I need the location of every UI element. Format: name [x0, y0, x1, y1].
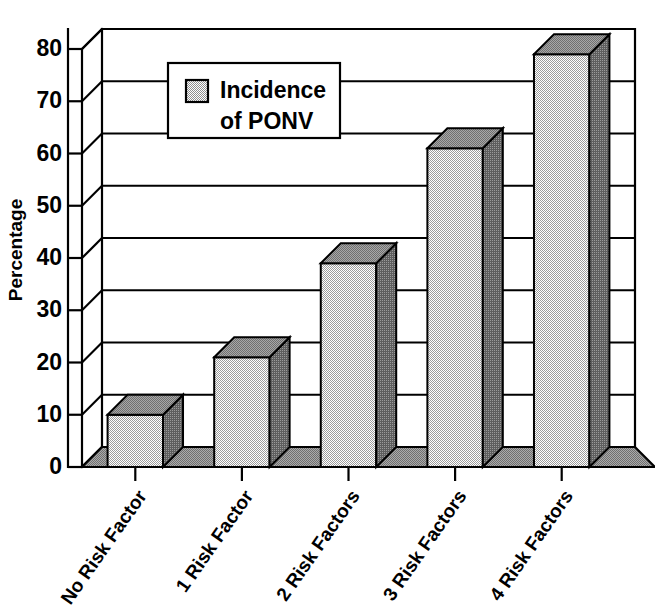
- legend-label-line-1: Incidence: [220, 77, 326, 103]
- y-axis-title: Percentage: [5, 199, 26, 301]
- y-tick-label-0: 0: [49, 453, 62, 479]
- y-tick-label-50: 50: [36, 192, 62, 218]
- legend-swatch-incidence: [186, 80, 208, 102]
- legend: Incidence of PONV: [168, 63, 340, 138]
- bar-front-face-1: [214, 357, 269, 467]
- chart-container: 01020304050607080 Percentage No Risk Fac…: [0, 0, 655, 614]
- legend-label-line-2: of PONV: [220, 108, 314, 134]
- y-tick-label-30: 30: [36, 296, 62, 322]
- y-tick-label-10: 10: [36, 401, 62, 427]
- y-tick-label-70: 70: [36, 87, 62, 113]
- bar-front-face-3: [427, 148, 482, 467]
- y-tick-label-80: 80: [36, 35, 62, 61]
- bar-side-face-3: [483, 128, 503, 467]
- bar-side-face-2: [376, 243, 396, 467]
- y-tick-label-60: 60: [36, 140, 62, 166]
- bar-front-face-2: [321, 263, 376, 467]
- bar-front-face-4: [534, 54, 589, 467]
- bar-3: [427, 128, 502, 467]
- bar-side-face-4: [589, 34, 609, 467]
- bar-4: [534, 34, 609, 467]
- bar-1: [214, 337, 289, 467]
- bar-2: [321, 243, 396, 467]
- bar-front-face-0: [108, 415, 163, 467]
- y-tick-label-40: 40: [36, 244, 62, 270]
- bar-chart: 01020304050607080 Percentage No Risk Fac…: [0, 0, 655, 614]
- bar-side-face-1: [270, 337, 290, 467]
- y-tick-label-20: 20: [36, 349, 62, 375]
- bar-0: [108, 395, 183, 467]
